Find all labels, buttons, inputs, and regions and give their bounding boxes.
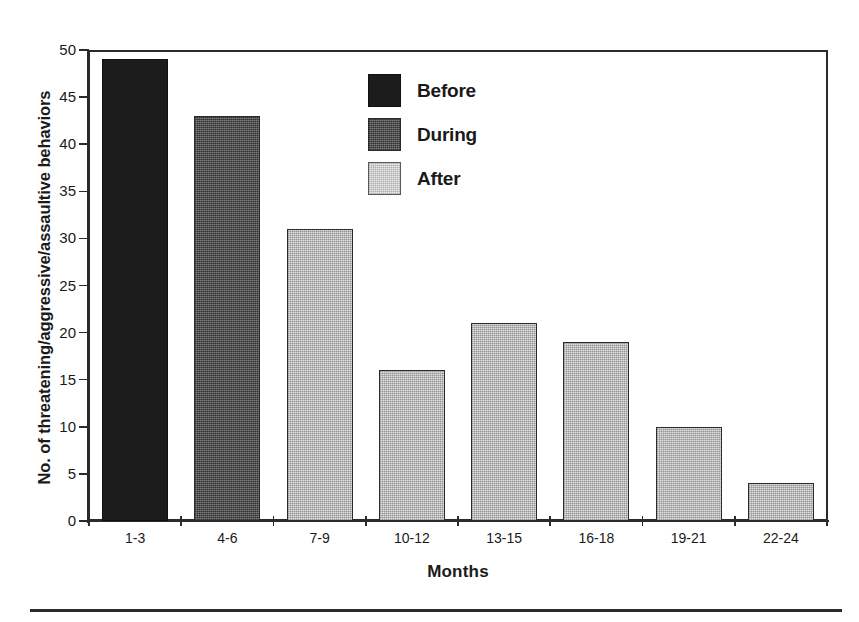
x-tick bbox=[457, 516, 459, 526]
x-tick bbox=[180, 516, 182, 526]
x-tick bbox=[642, 516, 644, 526]
y-tick-label: 50 bbox=[8, 42, 76, 57]
bar-16-18 bbox=[563, 342, 629, 521]
x-tick-label-19-21: 19-21 bbox=[643, 530, 735, 546]
legend-swatch-during bbox=[368, 118, 401, 151]
bar-4-6 bbox=[194, 116, 260, 521]
x-tick bbox=[88, 516, 90, 526]
figure: No. of threatening/aggressive/assaultive… bbox=[0, 0, 859, 622]
y-tick-label: 35 bbox=[8, 183, 76, 198]
legend-swatch-after bbox=[368, 162, 401, 195]
legend-item-during: During bbox=[368, 114, 477, 155]
y-tick-label: 5 bbox=[8, 466, 76, 481]
figure-bottom-rule bbox=[30, 609, 842, 612]
y-tick-label: 25 bbox=[8, 278, 76, 293]
x-tick-label-7-9: 7-9 bbox=[274, 530, 366, 546]
bar-10-12 bbox=[379, 370, 445, 521]
y-tick-label: 0 bbox=[8, 513, 76, 528]
x-tick bbox=[365, 516, 367, 526]
x-tick-label-4-6: 4-6 bbox=[181, 530, 273, 546]
legend-item-before: Before bbox=[368, 70, 477, 111]
x-tick-label-13-15: 13-15 bbox=[458, 530, 550, 546]
bar-19-21 bbox=[656, 427, 722, 521]
legend-item-after: After bbox=[368, 158, 477, 199]
legend-swatch-before bbox=[368, 74, 401, 107]
bar-1-3 bbox=[102, 59, 168, 521]
y-tick-label: 30 bbox=[8, 230, 76, 245]
legend: BeforeDuringAfter bbox=[368, 70, 477, 202]
legend-label: After bbox=[417, 168, 460, 190]
legend-label: Before bbox=[417, 80, 476, 102]
x-tick-label-16-18: 16-18 bbox=[550, 530, 642, 546]
y-axis-tick-labels: 05101520253035404550 bbox=[0, 0, 76, 622]
x-tick-label-10-12: 10-12 bbox=[366, 530, 458, 546]
x-tick bbox=[826, 516, 828, 526]
legend-label: During bbox=[417, 124, 477, 146]
bar-7-9 bbox=[287, 229, 353, 521]
x-tick-label-22-24: 22-24 bbox=[735, 530, 827, 546]
x-axis-title: Months bbox=[88, 562, 828, 582]
y-tick-label: 20 bbox=[8, 325, 76, 340]
y-tick-label: 40 bbox=[8, 136, 76, 151]
bar-13-15 bbox=[471, 323, 537, 521]
x-tick bbox=[734, 516, 736, 526]
y-tick-label: 10 bbox=[8, 419, 76, 434]
y-tick-label: 45 bbox=[8, 89, 76, 104]
x-tick-label-1-3: 1-3 bbox=[89, 530, 181, 546]
bar-22-24 bbox=[748, 483, 814, 521]
x-tick bbox=[549, 516, 551, 526]
y-axis-line bbox=[87, 49, 89, 523]
y-tick-label: 15 bbox=[8, 372, 76, 387]
x-tick bbox=[273, 516, 275, 526]
